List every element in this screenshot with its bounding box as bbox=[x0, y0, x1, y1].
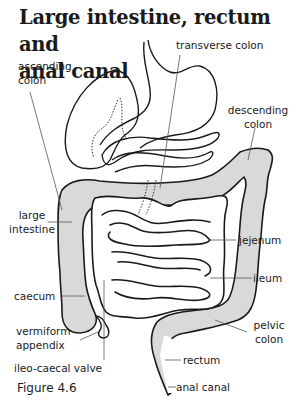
label-transverse-colon: transverse colon bbox=[176, 38, 263, 52]
upper-organs-outline bbox=[65, 40, 219, 172]
label-pelvic-colon-line1: pelvic bbox=[243, 318, 295, 332]
label-ileum: ileum bbox=[253, 271, 282, 285]
label-ascending-colon-line2: colon bbox=[18, 73, 72, 87]
label-large-intestine-line2: intestine bbox=[6, 222, 58, 236]
vermiform-appendix-shape bbox=[96, 316, 109, 338]
label-descending-colon: descending colon bbox=[219, 103, 297, 131]
label-vermiform-appendix-line2: appendix bbox=[16, 338, 70, 352]
label-anal-canal: anal canal bbox=[176, 380, 230, 394]
label-ileo-caecal-valve: ileo-caecal valve bbox=[14, 361, 102, 375]
label-pelvic-colon: pelvic colon bbox=[243, 318, 295, 346]
small-intestine-boundary bbox=[92, 196, 228, 319]
label-rectum: rectum bbox=[183, 353, 220, 367]
label-large-intestine-line1: large bbox=[6, 208, 58, 222]
label-descending-colon-line1: descending bbox=[219, 103, 297, 117]
label-large-intestine: large intestine bbox=[6, 208, 58, 236]
figure-caption: Figure 4.6 bbox=[17, 381, 77, 395]
label-pelvic-colon-line2: colon bbox=[243, 332, 295, 346]
label-descending-colon-line2: colon bbox=[219, 117, 297, 131]
label-ascending-colon-line1: ascending bbox=[18, 59, 72, 73]
label-ascending-colon: ascending colon bbox=[18, 59, 72, 87]
label-caecum: caecum bbox=[14, 289, 55, 303]
label-vermiform-appendix: vermiform appendix bbox=[16, 324, 70, 352]
label-vermiform-appendix-line1: vermiform bbox=[16, 324, 70, 338]
label-jejenum: jejenum bbox=[239, 233, 281, 247]
